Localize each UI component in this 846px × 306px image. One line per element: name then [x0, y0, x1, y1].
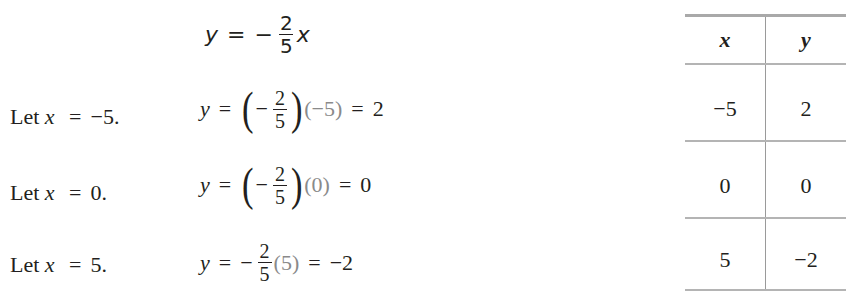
cell-x: 0 [685, 141, 766, 218]
substituted-value: (5) [274, 250, 300, 276]
table-row: 0 0 [685, 141, 846, 218]
equation-lhs: y [200, 172, 210, 198]
equation-lhs: y [205, 22, 218, 47]
cell-y: 2 [766, 64, 846, 141]
cell-y: 0 [766, 141, 846, 218]
let-text: Let [10, 104, 39, 129]
equals-sign: = [69, 104, 81, 129]
denominator: 5 [273, 110, 287, 132]
numerator: 2 [258, 240, 272, 262]
variable: x [45, 180, 55, 205]
equation-lhs: y [200, 96, 210, 122]
main-equation: y = − 2 5 x [205, 12, 310, 57]
minus-sign: − [256, 96, 268, 122]
denominator: 5 [258, 263, 272, 285]
cell-x: −5 [685, 64, 766, 141]
step-1-label: Let x =−5. [10, 104, 119, 130]
fraction: 2 5 [258, 240, 272, 285]
left-paren: ( [242, 162, 253, 208]
step-1-equation: y = ( − 2 5 ) (−5) = 2 [200, 86, 384, 132]
step-3-label: Let x =5. [10, 252, 107, 278]
step-3-equation: y = − 2 5 (5) = −2 [200, 240, 353, 285]
result: −2 [330, 250, 353, 276]
fraction: 2 5 [278, 12, 295, 57]
equals-sign: = [227, 22, 245, 47]
let-text: Let [10, 180, 39, 205]
table-row: −5 2 [685, 64, 846, 141]
minus-sign: − [256, 172, 268, 198]
cell-y: −2 [766, 218, 846, 290]
step-2-equation: y = ( − 2 5 ) (0) = 0 [200, 162, 371, 208]
table-header-row: x y [685, 16, 846, 65]
minus-sign: − [240, 250, 252, 276]
header-x: x [685, 16, 766, 65]
substituted-value: (0) [304, 172, 330, 198]
header-y: y [766, 16, 846, 65]
result: 0 [360, 172, 371, 198]
equals-sign: = [69, 252, 81, 277]
equation-lhs: y [200, 250, 210, 276]
equation-variable: x [297, 22, 310, 47]
let-text: Let [10, 252, 39, 277]
x-value: 5. [91, 252, 108, 277]
right-paren: ) [291, 86, 302, 132]
fraction: 2 5 [273, 87, 287, 132]
variable: x [45, 104, 55, 129]
x-value: −5. [91, 104, 120, 129]
denominator: 5 [273, 186, 287, 208]
equals-sign: = [69, 180, 81, 205]
result: 2 [373, 96, 384, 122]
fraction: 2 5 [273, 163, 287, 208]
numerator: 2 [273, 163, 287, 185]
cell-x: 5 [685, 218, 766, 290]
denominator: 5 [278, 35, 295, 57]
x-value: 0. [91, 180, 108, 205]
right-paren: ) [291, 162, 302, 208]
numerator: 2 [273, 87, 287, 109]
left-paren: ( [242, 86, 253, 132]
minus-sign: − [254, 22, 272, 47]
variable: x [45, 252, 55, 277]
table-row: 5 −2 [685, 218, 846, 290]
xy-table: x y −5 2 0 0 5 −2 [685, 14, 846, 291]
substituted-value: (−5) [304, 96, 342, 122]
numerator: 2 [278, 12, 295, 34]
step-2-label: Let x =0. [10, 180, 107, 206]
